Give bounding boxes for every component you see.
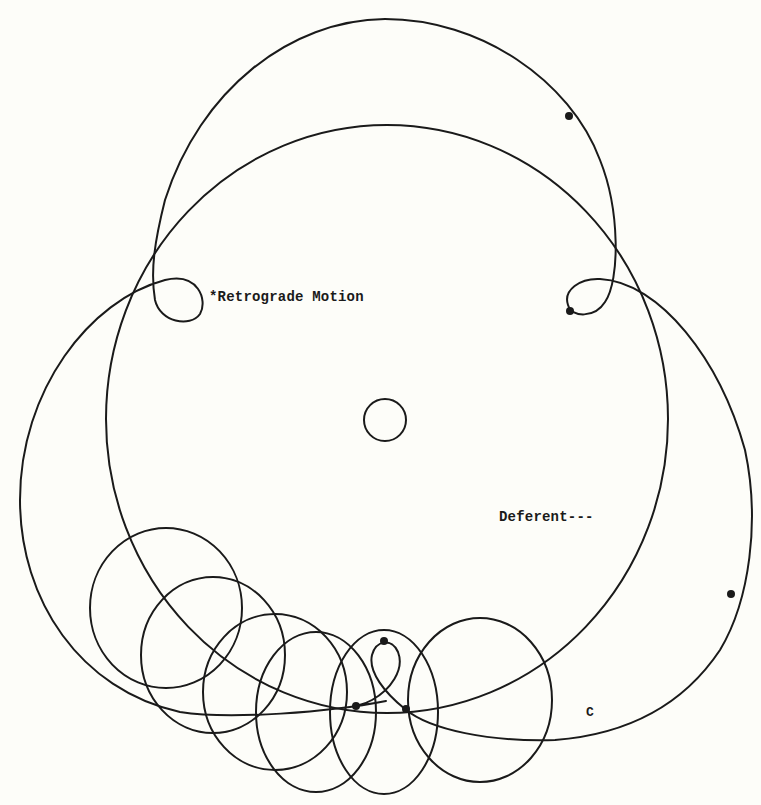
planet-dot-4 — [380, 637, 388, 645]
retrograde-motion-label: *Retrograde Motion — [209, 289, 364, 305]
planet-dot-3 — [727, 590, 735, 598]
planet-dot-5 — [352, 702, 360, 710]
epicycle-1 — [90, 528, 242, 688]
epicycle-2 — [141, 577, 285, 733]
point-c-label: C — [586, 705, 594, 720]
deferent-label: Deferent--- — [499, 509, 594, 525]
planet-dot-6 — [402, 705, 410, 713]
planet-dot-1 — [565, 112, 573, 120]
planet-path — [20, 19, 752, 740]
epicycle-6 — [408, 618, 552, 782]
center-body-circle — [364, 399, 406, 441]
deferent-circle — [106, 125, 668, 713]
planet-dot-2 — [566, 307, 574, 315]
epicycle-diagram — [0, 0, 761, 805]
epicycle-3 — [203, 614, 347, 770]
